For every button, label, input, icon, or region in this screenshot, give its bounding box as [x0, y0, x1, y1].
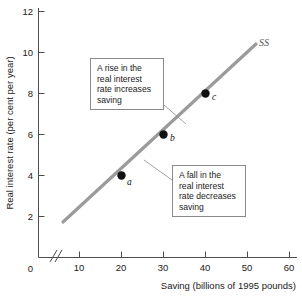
x-tick-label-60: 60	[284, 262, 295, 273]
x-tick-label-20: 20	[116, 262, 127, 273]
callout-rise-line-1: A rise in the	[97, 63, 158, 74]
callout-fall-connector	[144, 160, 172, 180]
callout-fall: A fall in the real interest rate decreas…	[172, 165, 246, 217]
callout-rise-line-4: saving	[97, 95, 158, 106]
y-tick-label-0: 0	[28, 263, 33, 274]
callout-fall-line-4: saving	[179, 202, 240, 213]
x-tick-label-50: 50	[242, 262, 253, 273]
data-point-c-group: c	[201, 89, 217, 102]
callout-fall-line-3: rate decreases	[179, 191, 240, 202]
callout-fall-line-1: A fall in the	[179, 170, 240, 181]
data-point-a	[117, 171, 125, 179]
x-axis-break-icon	[50, 250, 62, 262]
callout-rise-line-2: real interest	[97, 74, 158, 85]
x-axis-ticks	[80, 252, 290, 258]
data-point-a-group: a	[117, 171, 132, 187]
y-tick-label-8: 8	[28, 88, 33, 99]
y-tick-label-10: 10	[22, 47, 33, 58]
data-point-b	[159, 130, 167, 138]
data-point-c-label: c	[212, 92, 217, 102]
data-point-b-label: b	[170, 133, 175, 143]
data-point-a-label: a	[127, 177, 132, 187]
chart-plot-area: 12 10 8 6 4 2 0 10 20 30 40 50 60 SS	[0, 0, 302, 297]
data-point-c	[201, 89, 209, 97]
y-tick-label-2: 2	[28, 211, 33, 222]
callout-rise-line-3: rate increases	[97, 84, 158, 95]
y-tick-label-6: 6	[28, 129, 33, 140]
x-tick-label-30: 30	[158, 262, 169, 273]
data-point-b-group: b	[159, 130, 175, 143]
y-axis-ticks	[39, 12, 45, 217]
y-tick-label-12: 12	[22, 6, 33, 17]
callout-rise-connector	[164, 105, 186, 124]
curve-label-ss: SS	[259, 37, 269, 48]
y-axis-title: Real interest rate (per cent per year)	[4, 56, 15, 209]
supply-of-saving-chart: 12 10 8 6 4 2 0 10 20 30 40 50 60 SS	[0, 0, 302, 297]
y-tick-label-4: 4	[28, 170, 33, 181]
callout-rise: A rise in the real interest rate increas…	[90, 58, 164, 110]
x-axis-title: Saving (billions of 1995 pounds)	[161, 280, 296, 291]
callout-fall-line-2: real interest	[179, 181, 240, 192]
x-tick-label-40: 40	[200, 262, 211, 273]
x-tick-label-10: 10	[74, 262, 85, 273]
